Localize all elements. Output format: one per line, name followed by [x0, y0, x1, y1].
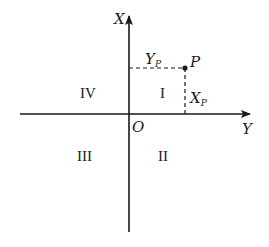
quadrant-iii-label: III: [77, 148, 92, 164]
coordinate-diagram: X Y O P YP XP IV I III II: [0, 0, 269, 247]
x-axis-label: X: [113, 10, 126, 28]
origin-label: O: [132, 118, 144, 136]
xp-label: XP: [189, 89, 208, 108]
quadrant-ii-label: II: [158, 148, 168, 164]
yp-label: YP: [145, 50, 162, 69]
quadrant-iv-label: IV: [80, 85, 96, 101]
point-p-label: P: [189, 53, 201, 71]
quadrant-i-label: I: [160, 85, 165, 101]
y-axis-label: Y: [242, 120, 254, 138]
point-p-marker: [182, 65, 187, 70]
